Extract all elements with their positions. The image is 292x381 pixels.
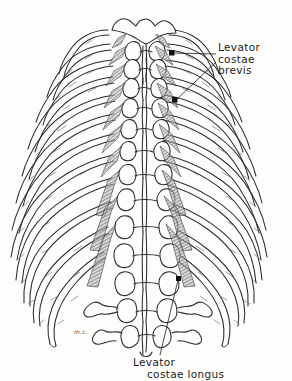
label-longus-line1: Levator	[133, 356, 175, 368]
label-levator-costae-brevis: Levator costae brevis	[218, 42, 260, 77]
dot-marker-brevis-lower	[172, 97, 178, 103]
dot-marker-brevis-upper	[169, 50, 175, 56]
label-brevis-line1: Levator	[218, 41, 260, 53]
label-brevis-line2: costae	[218, 53, 255, 65]
dot-marker-longus	[176, 276, 181, 281]
anatomy-figure: Levator costae brevis Levator costae lon…	[0, 0, 292, 381]
artist-signature: m.c.	[74, 328, 88, 335]
label-levator-costae-longus: Levator costae longus	[133, 357, 224, 380]
label-longus-line2: costae longus	[147, 369, 224, 381]
label-brevis-line3: brevis	[218, 64, 252, 76]
